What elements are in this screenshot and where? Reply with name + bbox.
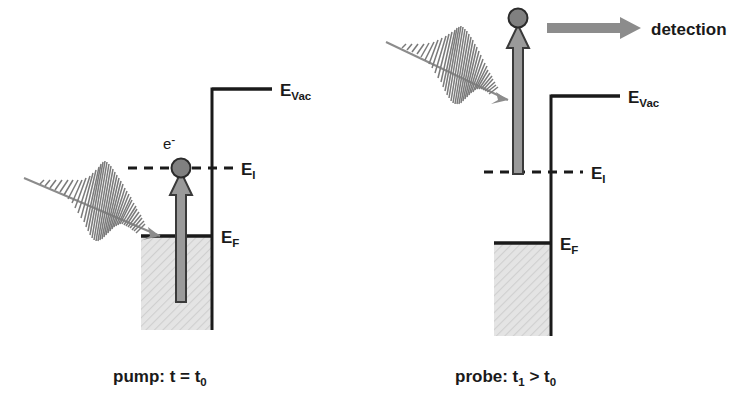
panel-pump: e- EVac EI EF pump: t = t0 <box>24 81 312 388</box>
panel-probe: detection EVac EI EF probe: t1 > t0 <box>386 9 727 389</box>
fermi-level-label-probe: EF <box>560 235 578 256</box>
vacuum-level-label-probe: EVac <box>628 88 660 109</box>
surface-barrier-probe <box>551 96 620 336</box>
electron-sphere-pump <box>172 159 191 178</box>
intermediate-level-label-probe: EI <box>591 164 606 185</box>
panel-caption-pump: pump: t = t0 <box>113 367 207 388</box>
occupied-states-fill-probe <box>494 243 551 336</box>
detection-label: detection <box>651 20 727 39</box>
panel-caption-probe: probe: t1 > t0 <box>455 367 556 388</box>
detection-arrow <box>547 17 641 39</box>
intermediate-level-label-pump: EI <box>241 160 256 181</box>
surface-barrier-pump <box>212 89 272 330</box>
electron-sphere-probe <box>509 9 528 28</box>
excitation-arrow-probe <box>507 25 529 174</box>
probe-pulse-icon <box>386 26 508 104</box>
pump-pulse-icon <box>24 161 160 241</box>
fermi-level-label-pump: EF <box>221 228 239 249</box>
vacuum-level-label-pump: EVac <box>280 81 312 102</box>
electron-label-pump: e- <box>163 133 175 152</box>
pump-probe-diagram: e- EVac EI EF pump: t = t0 <box>0 0 745 405</box>
